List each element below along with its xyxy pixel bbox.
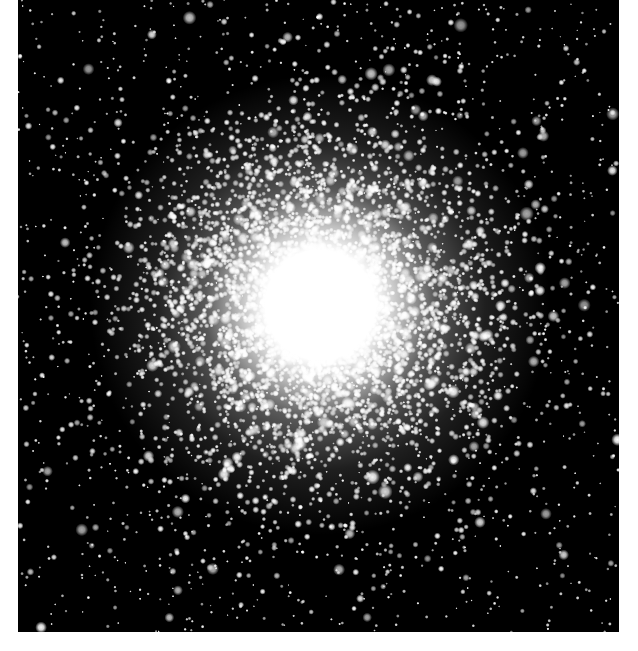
star-field-image <box>18 0 619 632</box>
stars-layer <box>18 0 619 632</box>
